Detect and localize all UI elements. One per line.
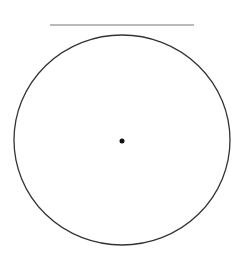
center-point (120, 139, 125, 144)
diagram-canvas (0, 0, 247, 262)
